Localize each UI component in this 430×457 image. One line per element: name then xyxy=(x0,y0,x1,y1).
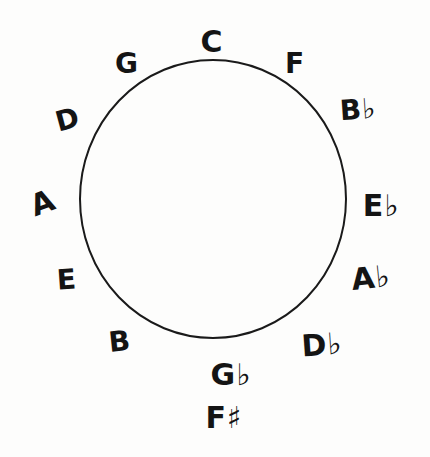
note-label-eb: E♭ xyxy=(363,191,400,221)
main-circle xyxy=(80,60,346,338)
note-label-bb: B♭ xyxy=(339,95,377,125)
note-label-f: F xyxy=(285,50,305,78)
note-label-fsharp: F♯ xyxy=(205,403,242,433)
note-label-g: G xyxy=(115,50,139,78)
note-label-gb: G♭ xyxy=(211,360,252,390)
note-label-b: B xyxy=(107,327,132,357)
circle-of-fifths-diagram: Circle of Fifths C F B♭ E♭ A♭ D♭ G♭ F♯ B… xyxy=(0,0,430,457)
note-label-e: E xyxy=(56,265,78,294)
note-label-c: C xyxy=(200,27,223,57)
note-label-ab: A♭ xyxy=(350,261,392,295)
note-label-db: D♭ xyxy=(300,329,343,362)
